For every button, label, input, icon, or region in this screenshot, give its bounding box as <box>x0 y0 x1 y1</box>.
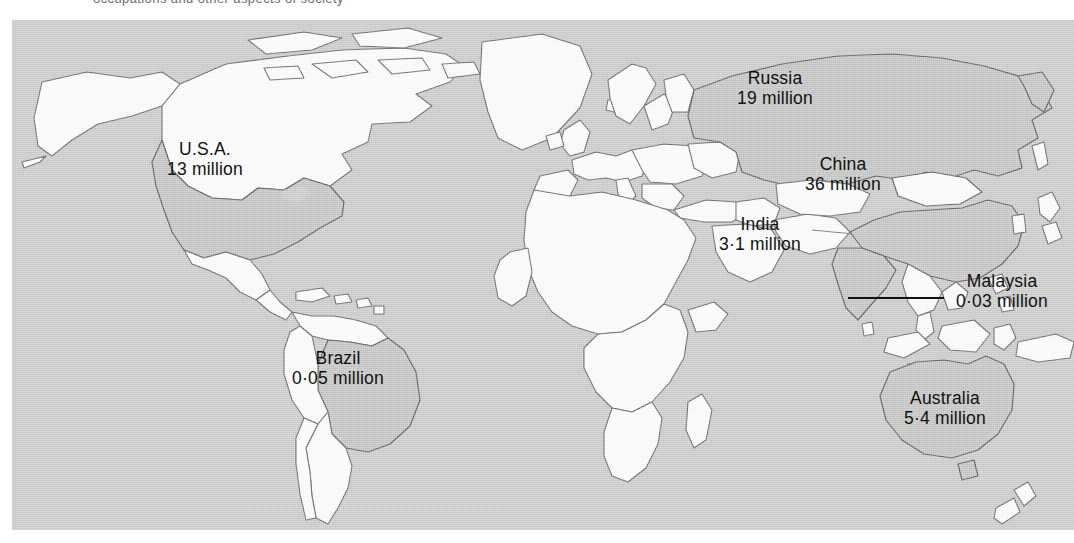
country-label-malaysia: Malaysia 0·03 million <box>956 271 1048 311</box>
country-name-usa: U.S.A. <box>167 139 243 159</box>
world-map: .land { fill:#ffffff; stroke:#6b6b6b; st… <box>12 20 1074 530</box>
country-value-russia: 19 million <box>737 88 813 108</box>
country-name-china: China <box>805 154 881 174</box>
country-value-china: 36 million <box>805 174 881 194</box>
country-label-australia: Australia 5·4 million <box>904 388 986 428</box>
country-value-malaysia: 0·03 million <box>956 291 1048 311</box>
world-map-graphic: .land { fill:#ffffff; stroke:#6b6b6b; st… <box>12 20 1074 530</box>
country-value-india: 3·1 million <box>719 234 801 254</box>
malaysia-leader-line <box>848 297 944 299</box>
country-name-india: India <box>719 214 801 234</box>
country-label-usa: U.S.A. 13 million <box>167 139 243 179</box>
caption-remnant-text: occupations and other aspects of society <box>93 0 344 6</box>
country-label-china: China 36 million <box>805 154 881 194</box>
country-value-australia: 5·4 million <box>904 408 986 428</box>
country-name-russia: Russia <box>737 68 813 88</box>
country-value-usa: 13 million <box>167 159 243 179</box>
country-name-brazil: Brazil <box>292 348 384 368</box>
caption-remnant: occupations and other aspects of society <box>0 0 1074 19</box>
world-map-figure: occupations and other aspects of society… <box>0 0 1074 543</box>
country-value-brazil: 0·05 million <box>292 368 384 388</box>
country-label-india: India 3·1 million <box>719 214 801 254</box>
country-name-australia: Australia <box>904 388 986 408</box>
country-label-brazil: Brazil 0·05 million <box>292 348 384 388</box>
country-label-russia: Russia 19 million <box>737 68 813 108</box>
country-name-malaysia: Malaysia <box>956 271 1048 291</box>
